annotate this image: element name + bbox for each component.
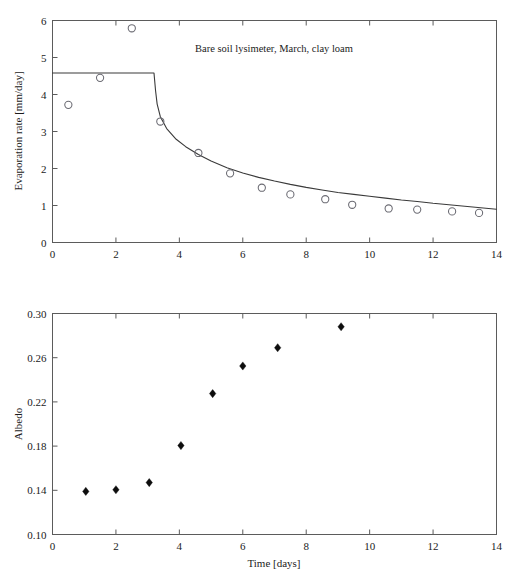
data-point-filled-diamond <box>113 486 119 494</box>
albedo-x-tick-labels: 02468101214 <box>50 540 503 552</box>
albedo-data-markers <box>83 323 345 496</box>
data-point-filled-diamond <box>240 362 246 370</box>
evaporation-model-curve <box>53 73 497 209</box>
y-tick-label: 0.10 <box>27 529 47 541</box>
x-tick-label: 14 <box>491 248 503 260</box>
evaporation-y-axis-label: Evaporation rate [mm/day] <box>12 71 24 190</box>
evaporation-y-tick-labels: 0123456 <box>41 15 47 249</box>
y-tick-label: 1 <box>41 200 47 212</box>
x-tick-label: 4 <box>177 248 183 260</box>
data-point-filled-diamond <box>83 487 89 495</box>
y-tick-label: 3 <box>41 126 47 138</box>
y-tick-label: 6 <box>41 15 47 27</box>
albedo-x-tick-marks <box>53 314 497 535</box>
albedo-chart-panel: 02468101214 0.100.140.180.220.260.30 Alb… <box>0 290 515 574</box>
data-point-filled-diamond <box>146 478 152 486</box>
data-point-open-circle <box>385 205 392 212</box>
figure-root: 02468101214 0123456 Bare soil lysimeter,… <box>0 0 515 574</box>
y-tick-label: 0.22 <box>27 396 46 408</box>
data-point-filled-diamond <box>338 323 344 331</box>
x-tick-label: 0 <box>50 540 56 552</box>
evaporation-chart-title: Bare soil lysimeter, March, clay loam <box>195 43 353 54</box>
data-point-open-circle <box>475 209 482 216</box>
albedo-y-tick-marks <box>53 314 58 535</box>
data-point-open-circle <box>449 208 456 215</box>
x-tick-label: 12 <box>428 248 439 260</box>
data-point-open-circle <box>414 206 421 213</box>
x-tick-label: 0 <box>50 248 56 260</box>
evaporation-y-tick-marks <box>53 21 58 243</box>
y-tick-label: 4 <box>41 89 47 101</box>
x-tick-label: 2 <box>113 248 119 260</box>
data-point-open-circle <box>287 191 294 198</box>
x-tick-label: 6 <box>240 248 246 260</box>
evaporation-chart-svg: 02468101214 0123456 Bare soil lysimeter,… <box>0 0 515 290</box>
x-tick-label: 8 <box>303 248 309 260</box>
y-tick-label: 0.18 <box>27 440 47 452</box>
data-point-filled-diamond <box>178 441 184 449</box>
x-tick-label: 2 <box>113 540 119 552</box>
data-point-open-circle <box>128 25 135 32</box>
x-tick-label: 10 <box>364 540 376 552</box>
x-tick-label: 14 <box>491 540 503 552</box>
x-tick-label: 6 <box>240 540 246 552</box>
evaporation-x-tick-labels: 02468101214 <box>50 248 503 260</box>
y-tick-label: 0.14 <box>27 484 47 496</box>
data-point-filled-diamond <box>274 344 280 352</box>
albedo-y-tick-labels: 0.100.140.180.220.260.30 <box>27 308 47 541</box>
y-tick-label: 0.26 <box>27 352 47 364</box>
y-tick-label: 5 <box>41 52 47 64</box>
evaporation-chart-panel: 02468101214 0123456 Bare soil lysimeter,… <box>0 0 515 290</box>
x-tick-label: 4 <box>177 540 183 552</box>
y-tick-label: 2 <box>41 163 47 175</box>
data-point-open-circle <box>65 101 72 108</box>
data-point-open-circle <box>322 196 329 203</box>
x-tick-label: 10 <box>364 248 376 260</box>
y-tick-label: 0 <box>41 237 47 249</box>
albedo-x-axis-label: Time [days] <box>247 557 300 569</box>
x-tick-label: 12 <box>428 540 439 552</box>
data-point-open-circle <box>349 201 356 208</box>
albedo-plot-frame <box>53 314 497 535</box>
albedo-chart-svg: 02468101214 0.100.140.180.220.260.30 Alb… <box>0 290 515 574</box>
albedo-y-axis-label: Albedo <box>12 407 24 440</box>
data-point-open-circle <box>227 170 234 177</box>
data-point-open-circle <box>258 184 265 191</box>
data-point-open-circle <box>96 74 103 81</box>
x-tick-label: 8 <box>303 540 309 552</box>
y-tick-label: 0.30 <box>27 308 47 320</box>
data-point-filled-diamond <box>209 390 215 398</box>
